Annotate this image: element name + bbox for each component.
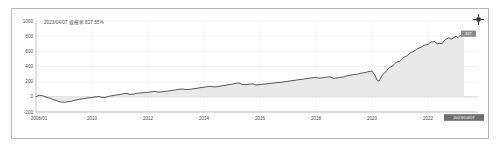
chart-plot-area[interactable]: 1000 800 600 400 200 0 -200 2008/01 2010… bbox=[12, 9, 488, 138]
end-date-badge: 2023/04/07 bbox=[444, 114, 484, 121]
end-date-badge-label: 2023/04/07 bbox=[453, 115, 475, 120]
crosshair-move-icon[interactable] bbox=[473, 14, 484, 25]
area-fill bbox=[36, 34, 464, 102]
y-tick-label: 1000 bbox=[23, 19, 34, 24]
x-tick-label: 2008/01 bbox=[31, 116, 48, 121]
cumulative-return-chart[interactable]: 1000 800 600 400 200 0 -200 2008/01 2010… bbox=[12, 9, 490, 140]
y-tick-label: 800 bbox=[25, 34, 33, 39]
x-tick-label: 2016 bbox=[255, 116, 266, 121]
x-tick-label: 2010 bbox=[87, 116, 98, 121]
x-tick-label: 2012 bbox=[143, 116, 154, 121]
x-tick-label: 2014 bbox=[199, 116, 210, 121]
x-tick-label: 2022 bbox=[423, 116, 434, 121]
chart-header-annotation: 2023/04/07 规模率 827.55% bbox=[44, 19, 104, 26]
x-tick-label: 2020 bbox=[367, 116, 378, 121]
y-tick-label: -200 bbox=[24, 110, 34, 115]
y-tick-labels: 1000 800 600 400 200 0 -200 bbox=[23, 19, 34, 115]
y-tick-label: 200 bbox=[25, 79, 33, 84]
y-tick-label: 600 bbox=[25, 49, 33, 54]
y-tick-label: 0 bbox=[30, 94, 33, 99]
x-tick-labels: 2008/01 2010 2012 2014 2016 2018 2020 20… bbox=[31, 116, 434, 121]
y-tick-label: 400 bbox=[25, 64, 33, 69]
end-value-badge: 827 bbox=[461, 31, 476, 37]
end-value-badge-label: 827 bbox=[465, 31, 472, 36]
x-tick-label: 2018 bbox=[311, 116, 322, 121]
chart-panel: 1000 800 600 400 200 0 -200 2008/01 2010… bbox=[11, 8, 489, 139]
